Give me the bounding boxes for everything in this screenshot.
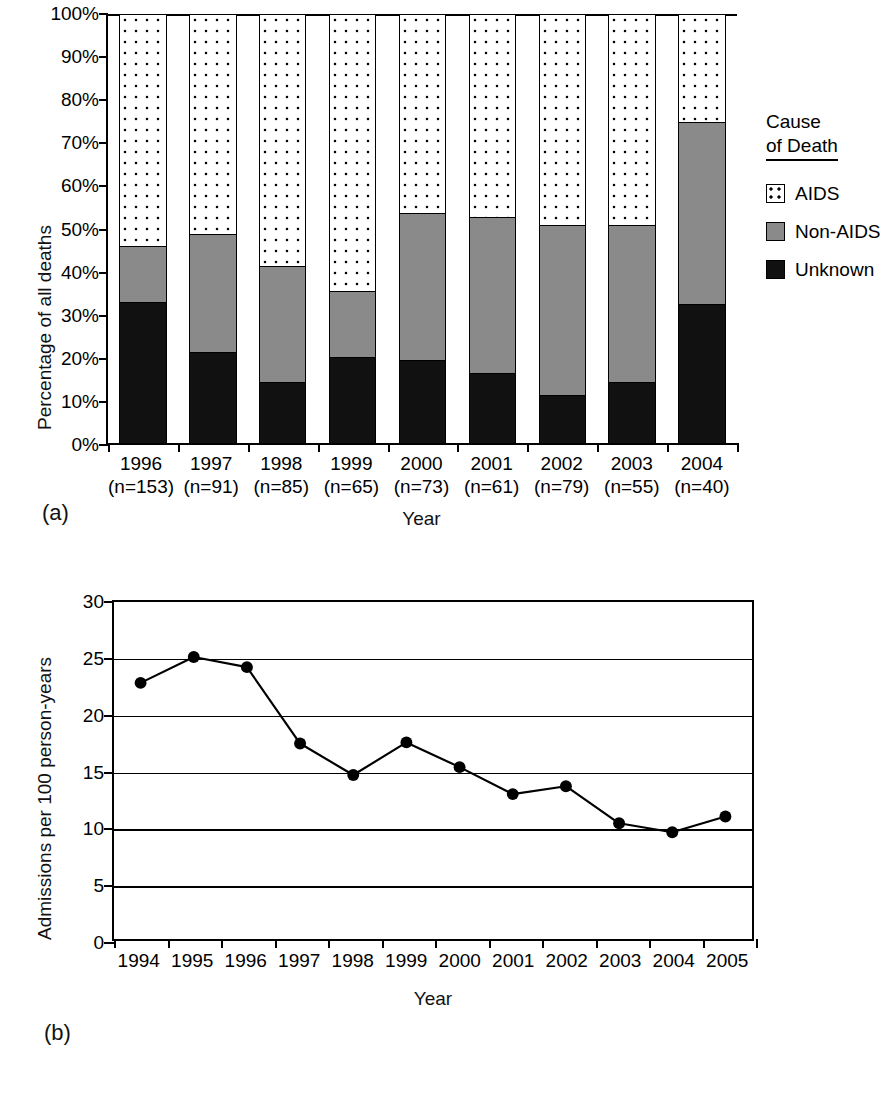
panel-a-x-label-2003: 2003(n=55) bbox=[597, 452, 667, 498]
panel-b-y-tick-mark bbox=[104, 658, 114, 660]
panel-a-y-tick-mark bbox=[99, 272, 108, 274]
bar-segment-non-aids bbox=[540, 226, 586, 395]
panel-a-bar-1998 bbox=[248, 14, 318, 443]
panel-b-x-tick-mark bbox=[542, 939, 544, 948]
unknown-swatch-icon bbox=[766, 260, 785, 279]
panel-a-y-tick-label: 30% bbox=[61, 305, 99, 327]
bar-segment-unknown bbox=[330, 358, 376, 443]
x-label-year: 2003 bbox=[597, 452, 667, 475]
panel-a-x-label-1996: 1996(n=153) bbox=[106, 452, 176, 498]
x-label-year: 1997 bbox=[176, 452, 246, 475]
panel-a-y-tick-mark bbox=[99, 401, 108, 403]
panel-b-x-tick-mark bbox=[649, 939, 651, 948]
panel-a-x-tick-labels: 1996(n=153)1997(n=91)1998(n=85)1999(n=65… bbox=[106, 452, 737, 498]
x-label-count: (n=91) bbox=[176, 475, 246, 498]
stacked-bar bbox=[399, 14, 447, 443]
bar-segment-aids bbox=[260, 14, 306, 267]
x-label-year: 1998 bbox=[246, 452, 316, 475]
panel-a-x-axis-title: Year bbox=[106, 508, 737, 530]
bar-segment-non-aids bbox=[260, 267, 306, 383]
data-point-2002 bbox=[560, 780, 572, 792]
bar-segment-aids bbox=[120, 14, 166, 247]
panel-a-y-tick-mark bbox=[99, 185, 108, 187]
panel-a-y-tick-label: 10% bbox=[61, 391, 99, 413]
panel-a-bar-1997 bbox=[178, 14, 248, 443]
panel-b-x-axis-title: Year bbox=[112, 988, 754, 1010]
panel-b-x-label-2001: 2001 bbox=[492, 950, 534, 972]
panel-b-x-label-1995: 1995 bbox=[171, 950, 213, 972]
panel-a-x-label-2000: 2000(n=73) bbox=[386, 452, 456, 498]
panel-a-legend-title-line1: Cause bbox=[766, 111, 821, 132]
bar-segment-aids bbox=[679, 14, 725, 123]
x-label-year: 1999 bbox=[316, 452, 386, 475]
panel-a-y-tick-label: 70% bbox=[61, 132, 99, 154]
panel-a-x-tick-mark bbox=[457, 443, 459, 452]
panel-b-data-points bbox=[135, 651, 732, 838]
panel-a-y-tick-mark bbox=[99, 56, 108, 58]
panel-a-bar-2003 bbox=[597, 14, 667, 443]
panel-b-y-tick-label: 25 bbox=[83, 648, 104, 670]
panel-a-y-tick-mark bbox=[99, 229, 108, 231]
data-point-1998 bbox=[347, 769, 359, 781]
panel-a-legend-item-unknown: Unknown bbox=[766, 259, 896, 281]
bar-segment-non-aids bbox=[470, 218, 516, 374]
bar-segment-unknown bbox=[260, 383, 306, 443]
aids-swatch-icon bbox=[766, 184, 785, 203]
bar-segment-unknown bbox=[609, 383, 655, 443]
panel-b-x-label-2000: 2000 bbox=[439, 950, 481, 972]
panel-a-y-tick-label: 0% bbox=[72, 434, 99, 456]
panel-b-y-tick-mark bbox=[104, 601, 114, 603]
panel-b-x-tick-mark bbox=[435, 939, 437, 948]
x-label-year: 1996 bbox=[106, 452, 176, 475]
panel-b-x-tick-mark bbox=[114, 939, 116, 948]
data-point-2003 bbox=[613, 817, 625, 829]
panel-a-y-tick-mark bbox=[99, 13, 108, 15]
panel-a-x-tick-mark bbox=[597, 443, 599, 452]
panel-a-plot-area: 100%90%80%70%60%50%40%30%20%10%0% bbox=[106, 14, 737, 445]
panel-b-y-tick-label: 20 bbox=[83, 705, 104, 727]
panel-a-y-tick-mark bbox=[99, 142, 108, 144]
panel-b-y-tick-label: 5 bbox=[93, 875, 104, 897]
panel-a-legend-item-label: AIDS bbox=[795, 183, 839, 205]
panel-a-x-tick-mark bbox=[318, 443, 320, 452]
panel-b-plot-area: 302520151050 bbox=[112, 600, 754, 941]
stacked-bar bbox=[259, 14, 307, 443]
data-point-1999 bbox=[400, 736, 412, 748]
panel-a-y-tick-label: 60% bbox=[61, 175, 99, 197]
panel-a-stacked-bar-chart: Percentage of all deaths 100%90%80%70%60… bbox=[0, 0, 896, 520]
panel-a-x-label-1999: 1999(n=65) bbox=[316, 452, 386, 498]
panel-a-legend-item-label: Non-AIDS bbox=[795, 221, 881, 243]
x-label-count: (n=61) bbox=[457, 475, 527, 498]
x-label-year: 2001 bbox=[457, 452, 527, 475]
panel-b-series-all-causes bbox=[114, 602, 752, 939]
x-label-year: 2002 bbox=[527, 452, 597, 475]
stacked-bar bbox=[608, 14, 656, 443]
bar-segment-non-aids bbox=[400, 214, 446, 361]
x-label-year: 2004 bbox=[667, 452, 737, 475]
panel-a-x-tick-mark bbox=[667, 443, 669, 452]
panel-a-y-tick-label: 50% bbox=[61, 219, 99, 241]
panel-a-label: (a) bbox=[42, 500, 69, 526]
stacked-bar bbox=[329, 14, 377, 443]
panel-a-legend-title-line2: of Death bbox=[766, 134, 838, 161]
panel-a-y-axis-title: Percentage of all deaths bbox=[34, 225, 56, 430]
nonaids-swatch-icon bbox=[766, 222, 785, 241]
x-label-count: (n=73) bbox=[386, 475, 456, 498]
panel-a-legend-items: AIDSNon-AIDSUnknown bbox=[766, 183, 896, 281]
bar-segment-unknown bbox=[400, 361, 446, 443]
panel-b-x-label-1999: 1999 bbox=[385, 950, 427, 972]
panel-b-x-label-2003: 2003 bbox=[599, 950, 641, 972]
panel-a-bar-2004 bbox=[667, 14, 737, 443]
data-point-2000 bbox=[454, 761, 466, 773]
panel-b-y-tick-label: 10 bbox=[83, 818, 104, 840]
data-point-1996 bbox=[241, 661, 253, 673]
x-label-count: (n=79) bbox=[527, 475, 597, 498]
panel-b-x-tick-mark bbox=[168, 939, 170, 948]
panel-b-x-tick-mark bbox=[275, 939, 277, 948]
panel-a-bar-group bbox=[108, 14, 737, 443]
panel-a-x-tick-mark bbox=[108, 443, 110, 452]
panel-a-x-label-2004: 2004(n=40) bbox=[667, 452, 737, 498]
panel-a-bar-2002 bbox=[527, 14, 597, 443]
bar-segment-unknown bbox=[190, 353, 236, 443]
panel-b-polyline bbox=[141, 657, 726, 832]
